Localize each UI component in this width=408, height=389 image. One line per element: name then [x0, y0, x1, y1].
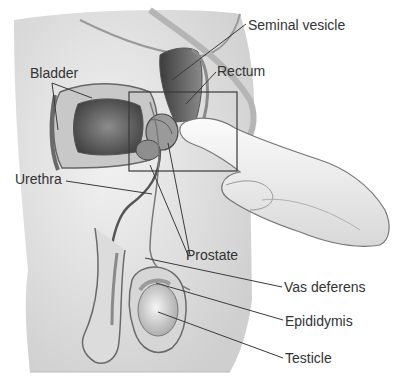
label-urethra: Urethra — [15, 172, 62, 186]
label-prostate: Prostate — [186, 248, 238, 262]
label-bladder: Bladder — [30, 66, 78, 80]
anatomy-diagram: Seminal vesicle Rectum Bladder Urethra P… — [0, 0, 408, 389]
label-epididymis: Epididymis — [285, 314, 353, 328]
label-seminal-vesicle: Seminal vesicle — [248, 18, 345, 32]
anatomy-illustration — [0, 0, 408, 389]
scrotum — [129, 267, 186, 352]
label-testicle: Testicle — [285, 351, 332, 365]
label-rectum: Rectum — [217, 64, 265, 78]
label-vas-deferens: Vas deferens — [284, 280, 365, 294]
